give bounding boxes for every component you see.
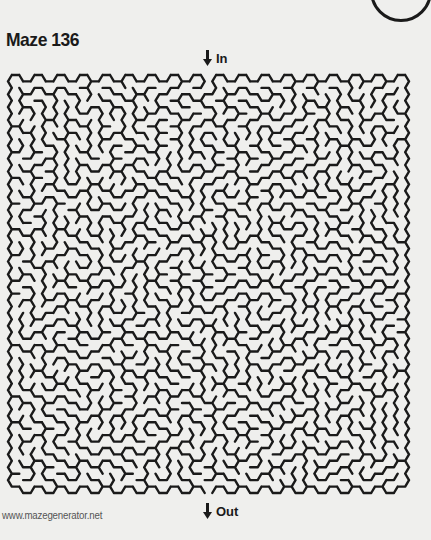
maze-walls: [8, 75, 409, 493]
exit-label: Out: [216, 504, 238, 519]
footer-url[interactable]: www.mazegenerator.net: [2, 509, 102, 521]
maze-exit: Out: [203, 503, 238, 519]
arrow-down-icon: [203, 503, 212, 519]
maze-grid: [0, 0, 431, 540]
